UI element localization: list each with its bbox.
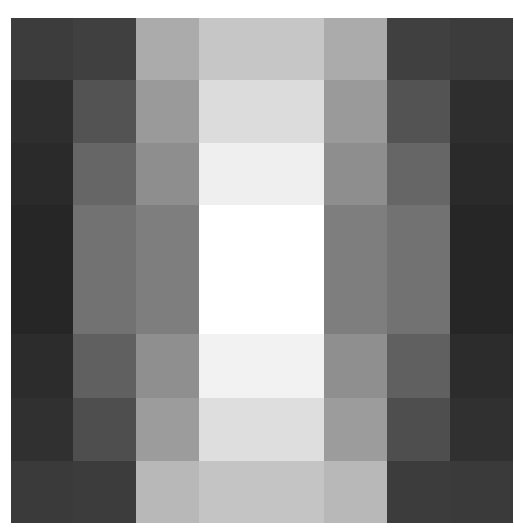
block-r1-c4 <box>324 80 387 143</box>
block-r6-c2 <box>136 461 199 523</box>
block-r3-c1 <box>73 205 136 334</box>
grayscale-block-pattern <box>0 0 514 528</box>
block-r6-c4 <box>324 461 387 523</box>
block-r3-c3 <box>199 205 324 334</box>
block-r0-c1 <box>73 18 136 80</box>
block-r0-c3 <box>199 18 324 80</box>
block-r0-c4 <box>324 18 387 80</box>
block-r6-c5 <box>387 461 450 523</box>
block-r4-c3 <box>199 334 324 398</box>
block-r4-c1 <box>73 334 136 398</box>
block-r6-c6 <box>450 461 513 523</box>
block-r4-c2 <box>136 334 199 398</box>
block-r3-c6 <box>450 205 513 334</box>
block-r5-c1 <box>73 398 136 461</box>
block-r1-c3 <box>199 80 324 143</box>
block-r3-c2 <box>136 205 199 334</box>
block-r1-c5 <box>387 80 450 143</box>
block-r5-c4 <box>324 398 387 461</box>
block-r6-c3 <box>199 461 324 523</box>
block-r4-c5 <box>387 334 450 398</box>
block-r1-c2 <box>136 80 199 143</box>
block-r5-c6 <box>450 398 513 461</box>
block-r2-c2 <box>136 143 199 205</box>
block-r4-c0 <box>11 334 73 398</box>
block-r1-c1 <box>73 80 136 143</box>
block-r4-c6 <box>450 334 513 398</box>
block-r0-c6 <box>450 18 513 80</box>
block-r3-c0 <box>11 205 73 334</box>
block-r2-c0 <box>11 143 73 205</box>
block-r5-c3 <box>199 398 324 461</box>
block-r1-c0 <box>11 80 73 143</box>
block-r0-c0 <box>11 18 73 80</box>
block-r4-c4 <box>324 334 387 398</box>
block-r5-c0 <box>11 398 73 461</box>
block-r1-c6 <box>450 80 513 143</box>
block-r6-c0 <box>11 461 73 523</box>
block-r2-c4 <box>324 143 387 205</box>
block-r2-c5 <box>387 143 450 205</box>
block-r2-c6 <box>450 143 513 205</box>
block-r3-c4 <box>324 205 387 334</box>
block-r0-c2 <box>136 18 199 80</box>
block-r6-c1 <box>73 461 136 523</box>
block-r5-c2 <box>136 398 199 461</box>
block-r3-c5 <box>387 205 450 334</box>
block-r2-c1 <box>73 143 136 205</box>
block-r2-c3 <box>199 143 324 205</box>
block-r0-c5 <box>387 18 450 80</box>
block-r5-c5 <box>387 398 450 461</box>
